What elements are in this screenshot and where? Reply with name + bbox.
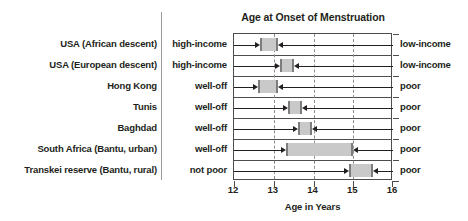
left-arrow-line bbox=[234, 66, 275, 67]
x-axis-tick-label: 12 bbox=[221, 184, 245, 195]
row-label-class-right: poor bbox=[400, 80, 421, 91]
left-arrow-head bbox=[253, 84, 258, 90]
x-axis-tick-label: 13 bbox=[261, 184, 285, 195]
range-bar bbox=[258, 80, 278, 93]
x-axis-tick-label: 15 bbox=[340, 184, 364, 195]
left-arrow-line bbox=[234, 171, 344, 172]
row-tick bbox=[393, 118, 399, 119]
row-label-region: Transkei reserve (Bantu, rural) bbox=[24, 164, 157, 175]
row-tick bbox=[393, 97, 399, 98]
chart-title: Age at Onset of Menstruation bbox=[233, 11, 393, 23]
row-label-region: South Africa (Bantu, urban) bbox=[37, 143, 157, 154]
chart-container: Age at Onset of Menstruation Age in Year… bbox=[0, 0, 468, 221]
right-arrow-line bbox=[283, 87, 393, 88]
plot-area bbox=[233, 33, 392, 180]
row-separator bbox=[234, 97, 391, 98]
range-bar bbox=[298, 122, 312, 135]
range-bar bbox=[280, 59, 294, 72]
x-axis-tick-label: 16 bbox=[380, 184, 404, 195]
left-arrow-line bbox=[234, 45, 255, 46]
row-tick bbox=[393, 76, 399, 77]
row-separator bbox=[234, 139, 391, 140]
row-label-class-left: well-off bbox=[167, 80, 227, 91]
right-arrow-head bbox=[312, 126, 317, 132]
right-arrow-head bbox=[302, 105, 307, 111]
row-tick bbox=[393, 139, 399, 140]
row-label-class-right: poor bbox=[400, 164, 421, 175]
x-axis-tick-label: 14 bbox=[301, 184, 325, 195]
row-label-region: Baghdad bbox=[117, 122, 157, 133]
row-label-region: Tunis bbox=[133, 101, 157, 112]
left-arrow-head bbox=[283, 105, 288, 111]
row-separator bbox=[234, 160, 391, 161]
row-tick bbox=[393, 181, 399, 182]
row-label-class-right: poor bbox=[400, 101, 421, 112]
row-label-class-left: well-off bbox=[167, 143, 227, 154]
row-label-class-right: poor bbox=[400, 143, 421, 154]
right-arrow-head bbox=[278, 84, 283, 90]
range-bar bbox=[349, 164, 373, 177]
row-separator bbox=[234, 118, 391, 119]
row-label-class-left: high-income bbox=[167, 38, 227, 49]
row-tick bbox=[393, 55, 399, 56]
left-arrow-head bbox=[255, 42, 260, 48]
grid-line bbox=[314, 34, 315, 179]
row-tick bbox=[393, 160, 399, 161]
row-label-region: Hong Kong bbox=[107, 80, 157, 91]
left-arrow-line bbox=[234, 150, 281, 151]
left-arrow-head bbox=[275, 63, 280, 69]
row-label-class-left: high-income bbox=[167, 59, 227, 70]
grid-line bbox=[353, 34, 354, 179]
right-arrow-head bbox=[373, 168, 378, 174]
right-arrow-line bbox=[307, 108, 393, 109]
row-label-class-left: not poor bbox=[167, 164, 227, 175]
row-label-region: USA (African descent) bbox=[60, 38, 157, 49]
row-label-region: USA (European descent) bbox=[49, 59, 157, 70]
row-separator bbox=[234, 76, 391, 77]
right-arrow-line bbox=[378, 171, 393, 172]
range-bar bbox=[288, 101, 302, 114]
range-bar bbox=[260, 38, 278, 51]
left-arrow-line bbox=[234, 129, 293, 130]
label-divider bbox=[161, 12, 162, 180]
right-arrow-line bbox=[317, 129, 393, 130]
right-arrow-head bbox=[353, 147, 358, 153]
left-arrow-head bbox=[293, 126, 298, 132]
row-label-class-left: well-off bbox=[167, 101, 227, 112]
row-tick bbox=[393, 34, 399, 35]
row-label-class-left: well-off bbox=[167, 122, 227, 133]
right-arrow-line bbox=[358, 150, 393, 151]
right-arrow-head bbox=[294, 63, 299, 69]
left-arrow-line bbox=[234, 87, 253, 88]
left-arrow-head bbox=[344, 168, 349, 174]
row-label-class-right: low-income bbox=[400, 59, 451, 70]
range-bar bbox=[286, 143, 354, 156]
right-arrow-head bbox=[278, 42, 283, 48]
row-label-class-right: poor bbox=[400, 122, 421, 133]
x-axis-title: Age in Years bbox=[233, 201, 392, 212]
grid-line bbox=[274, 34, 275, 179]
row-separator bbox=[234, 55, 391, 56]
left-arrow-line bbox=[234, 108, 283, 109]
row-label-class-right: low-income bbox=[400, 38, 451, 49]
right-arrow-line bbox=[299, 66, 393, 67]
left-arrow-head bbox=[281, 147, 286, 153]
right-arrow-line bbox=[283, 45, 393, 46]
